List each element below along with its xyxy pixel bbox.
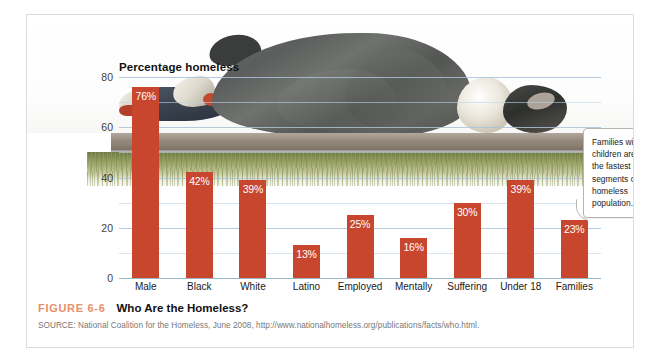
bar-slot: 39% <box>226 77 280 278</box>
x-axis-labels: MaleBlackWhiteLatinoEmployedMentallyillS… <box>119 281 601 293</box>
bar-value-label: 16% <box>403 241 423 253</box>
bar-value-label: 39% <box>511 183 531 195</box>
bar[interactable]: 42% <box>186 172 213 278</box>
bar-value-label: 23% <box>564 223 584 235</box>
x-axis-tick-label: Latino <box>280 281 334 293</box>
bar[interactable]: 13% <box>293 245 320 278</box>
x-axis-tick-label: Employed <box>333 281 387 293</box>
bar-slot: 30% <box>440 77 494 278</box>
bar[interactable]: 39% <box>239 180 266 278</box>
bar-value-label: 13% <box>296 248 316 260</box>
bar-slot: 16% <box>387 77 441 278</box>
x-axis-tick-label: Sufferingaddiction <box>440 281 494 293</box>
bar-slot: 42% <box>173 77 227 278</box>
y-axis-tick-label: 0 <box>107 272 113 284</box>
bar[interactable]: 39% <box>507 180 534 278</box>
bar[interactable]: 23% <box>561 220 588 278</box>
plot-area: 020406080 76%42%39%13%25%16%30%39%23% <box>119 77 601 279</box>
figure-caption: FIGURE 6-6 Who Are the Homeless? <box>38 302 248 314</box>
bar-slot: 13% <box>280 77 334 278</box>
bar-series: 76%42%39%13%25%16%30%39%23% <box>119 77 601 278</box>
x-axis-tick-label: White <box>226 281 280 293</box>
figure-source: SOURCE: National Coalition for the Homel… <box>38 321 479 330</box>
bar-value-label: 30% <box>457 206 477 218</box>
bar-slot: 25% <box>333 77 387 278</box>
bar[interactable]: 30% <box>454 203 481 278</box>
bar-slot: 76% <box>119 77 173 278</box>
bar[interactable]: 16% <box>400 238 427 278</box>
bar-value-label: 42% <box>189 175 209 187</box>
x-axis-tick-label: Black <box>173 281 227 293</box>
chart-region: Percentage homeless 020406080 76%42%39%1… <box>27 15 633 293</box>
x-axis-tick-label: Familieswith children <box>548 281 602 293</box>
y-axis-tick-label: 40 <box>101 172 113 184</box>
x-axis-tick-label: Under 18 <box>494 281 548 293</box>
y-axis-tick-label: 20 <box>101 222 113 234</box>
bar[interactable]: 76% <box>132 87 159 278</box>
bar-value-label: 25% <box>350 218 370 230</box>
y-axis-tick-label: 80 <box>101 71 113 83</box>
callout-box: Families with children are among the fas… <box>583 128 633 218</box>
bar-value-label: 76% <box>136 90 156 102</box>
bar[interactable]: 25% <box>347 215 374 278</box>
figure-number: FIGURE 6-6 <box>38 302 106 314</box>
y-axis-tick-label: 60 <box>101 121 113 133</box>
x-axis-line <box>119 278 601 279</box>
y-axis-title: Percentage homeless <box>119 61 239 73</box>
x-axis-tick-label: Male <box>119 281 173 293</box>
x-axis-tick-label: Mentallyill <box>387 281 441 293</box>
bar-value-label: 39% <box>243 183 263 195</box>
figure-title: Who Are the Homeless? <box>117 302 249 314</box>
bar-slot: 39% <box>494 77 548 278</box>
